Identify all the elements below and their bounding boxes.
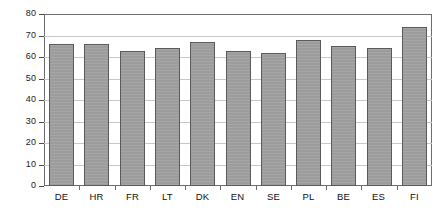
x-axis-tick-label: DK	[185, 192, 220, 202]
x-axis-tick-label: LT	[150, 192, 185, 202]
x-axis-tick-label: HR	[79, 192, 114, 202]
x-axis-tick-label: FI	[397, 192, 432, 202]
x-axis-tick-label: SE	[256, 192, 291, 202]
bar-chart: 01020304050607080 DEHRFRLTDKENSEPLBEESFI	[0, 0, 444, 219]
x-axis-tick-label: ES	[361, 192, 396, 202]
x-axis-tick-labels: DEHRFRLTDKENSEPLBEESFI	[0, 0, 444, 219]
x-axis-tick-label: PL	[291, 192, 326, 202]
x-axis-tick-label: FR	[115, 192, 150, 202]
x-axis-tick-label: BE	[326, 192, 361, 202]
x-axis-tick-label: EN	[220, 192, 255, 202]
x-axis-tick-label: DE	[44, 192, 79, 202]
